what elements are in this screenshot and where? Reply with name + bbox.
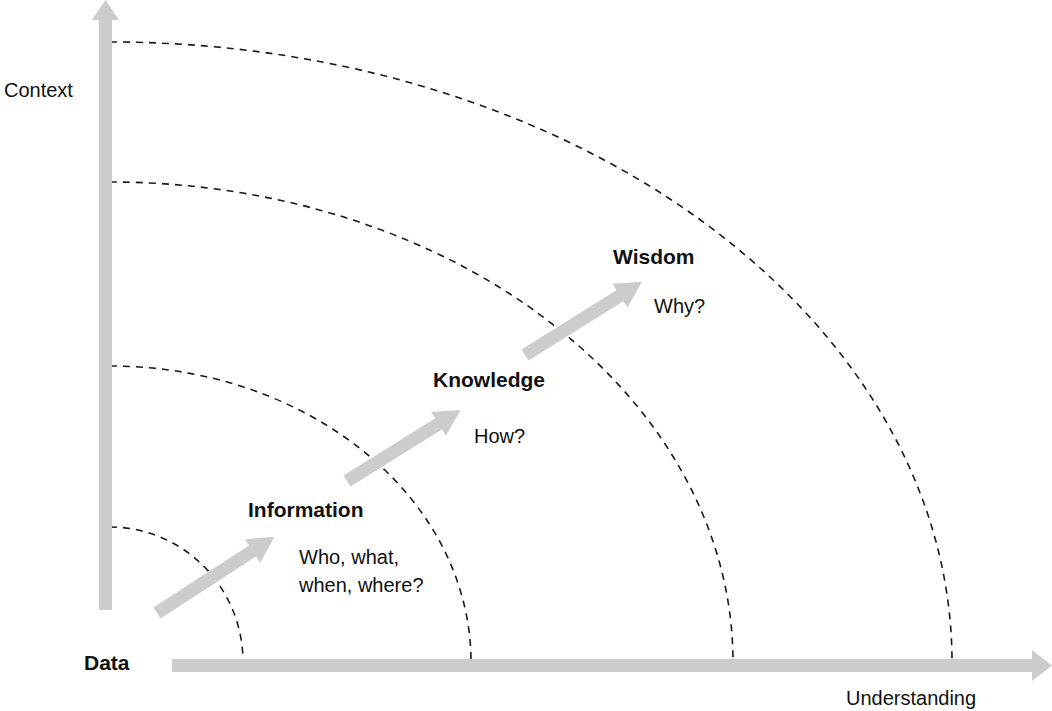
information-question-line1: Who, what, [299,545,399,569]
knowledge-question: How? [474,424,525,448]
y-axis-label: Context [4,78,73,102]
level-data-label: Data [84,650,130,675]
information-question-line2: when, where? [299,573,424,597]
arrow-data-to-information [149,525,282,625]
arrowhead-right-icon [1032,650,1052,681]
wisdom-question: Why? [654,294,705,318]
x-axis-arrow [172,650,1052,681]
level-information-label: Information [248,497,364,522]
arrow-knowledge-to-wisdom [518,270,650,367]
level-wisdom-label: Wisdom [613,244,694,269]
dikw-diagram [0,0,1052,711]
arrowhead-up-icon [92,0,119,20]
y-axis-arrow [92,0,119,610]
arrow-information-to-knowledge [340,398,468,493]
x-axis-label: Understanding [846,686,976,710]
progression-arrows [149,270,649,625]
level-knowledge-label: Knowledge [433,367,545,392]
